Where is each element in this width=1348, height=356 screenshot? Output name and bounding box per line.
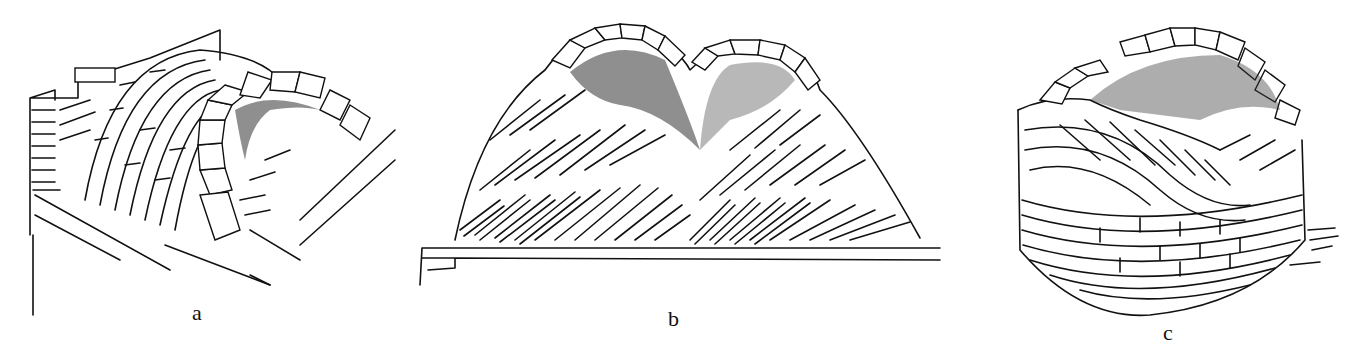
panel-a-label: a	[192, 300, 202, 326]
panel-c-circular-vault: c	[990, 0, 1348, 356]
panel-a-barrel-vault: a	[0, 0, 400, 356]
circular-vault-drawing	[990, 0, 1348, 356]
panel-c-label: c	[1163, 320, 1173, 346]
panel-b-label: b	[668, 306, 679, 332]
panel-b-twin-dome-vault: b	[400, 0, 960, 356]
twin-dome-vault-drawing	[400, 0, 960, 356]
